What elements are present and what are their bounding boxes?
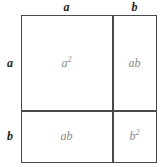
edge-label-left-a: a <box>0 57 20 69</box>
divider-horizontal <box>21 110 157 112</box>
cell-exponent-text: 2 <box>136 128 140 137</box>
cell-label-ab-bottom-left: ab <box>21 130 112 142</box>
cell-label-a-squared: a2 <box>21 57 112 69</box>
cell-base-text: ab <box>129 56 141 70</box>
edge-label-top-a: a <box>21 1 112 13</box>
cell-base-text: ab <box>61 129 73 143</box>
cell-exponent-text: 2 <box>68 55 72 64</box>
diagram-canvas: a b a b a2 ab ab b2 <box>0 0 165 167</box>
cell-label-b-squared: b2 <box>112 130 157 142</box>
cell-label-ab-top-right: ab <box>112 57 157 69</box>
edge-label-left-b: b <box>0 130 20 142</box>
edge-label-top-b: b <box>112 1 157 13</box>
